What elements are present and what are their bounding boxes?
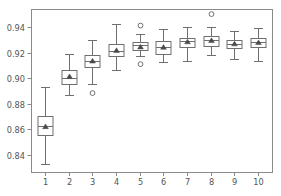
boxes-group: [38, 12, 266, 165]
y-tick-label: 0.92: [7, 49, 25, 59]
y-tick-label: 0.94: [7, 23, 25, 33]
x-tick-label: 4: [114, 177, 119, 187]
y-tick-label: 0.84: [7, 151, 25, 161]
outlier-point: [138, 62, 143, 67]
boxplot-figure: 0.840.860.880.900.920.9412345678910: [0, 0, 281, 196]
boxplot-box: [133, 23, 148, 66]
boxplot-box: [109, 25, 124, 71]
mean-marker: [67, 74, 73, 79]
axes-group: [28, 10, 273, 177]
mean-marker: [90, 58, 96, 63]
outlier-point: [138, 23, 143, 28]
boxplot-box: [62, 55, 77, 96]
y-tick-label: 0.88: [7, 100, 25, 110]
outlier-point: [209, 12, 214, 17]
y-tick-label: 0.86: [7, 125, 25, 135]
boxplot-box: [38, 88, 53, 165]
boxplot-box: [85, 41, 100, 96]
x-tick-label: 2: [67, 177, 72, 187]
mean-marker: [232, 41, 238, 46]
boxplot-canvas: 0.840.860.880.900.920.9412345678910: [0, 0, 281, 196]
x-tick-label: 1: [43, 177, 48, 187]
x-tick-label: 9: [232, 177, 237, 187]
boxplot-box: [204, 12, 219, 56]
x-tick-label: 8: [209, 177, 214, 187]
y-tick-label: 0.90: [7, 74, 25, 84]
x-tick-label: 10: [253, 177, 263, 187]
mean-marker: [114, 48, 120, 53]
x-tick-label: 3: [90, 177, 95, 187]
x-tick-label: 5: [138, 177, 143, 187]
mean-marker: [138, 44, 144, 49]
mean-marker: [161, 45, 167, 50]
boxplot-box: [227, 32, 242, 60]
boxplot-box: [180, 28, 195, 62]
x-tick-label: 6: [161, 177, 166, 187]
outlier-point: [90, 91, 95, 96]
boxplot-box: [156, 30, 171, 63]
boxplot-box: [251, 29, 266, 62]
x-tick-label: 7: [185, 177, 190, 187]
plot-frame: [32, 10, 273, 173]
